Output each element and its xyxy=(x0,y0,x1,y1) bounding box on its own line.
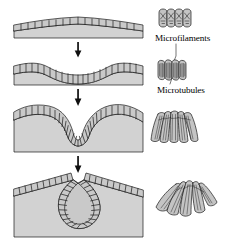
cell-detail-4-constricted-wedges xyxy=(156,181,217,216)
stage-3-to-4-arrow xyxy=(75,156,82,173)
stage-4-closing-vesicle xyxy=(14,173,143,237)
stage-3-deep-groove xyxy=(14,105,143,152)
detail-1-cell-3 xyxy=(175,9,183,27)
detail-1-cell-2 xyxy=(167,9,175,27)
stage-1-flat-epithelium xyxy=(14,17,143,38)
microtubules-label: Microtubules xyxy=(157,85,205,95)
cell-detail-2-columnar-microtubules xyxy=(158,60,186,80)
detail-1-cell-1 xyxy=(159,9,167,27)
stage-1-to-2-arrow xyxy=(75,42,82,58)
cell-detail-3-wedge-cells xyxy=(151,111,198,143)
stage-2-shallow-placode xyxy=(14,63,143,85)
stage-2-to-3-arrow xyxy=(75,89,82,106)
detail-1-cell-4 xyxy=(183,9,191,27)
microfilaments-label: Microfilaments xyxy=(155,33,210,43)
cell-detail-1-cuboidal-microfilaments xyxy=(159,9,191,27)
detail-3-cell-3 xyxy=(170,111,178,143)
microfilaments-leader-line xyxy=(174,44,176,61)
invagination-figure: Microfilaments Microtubules xyxy=(0,0,236,246)
